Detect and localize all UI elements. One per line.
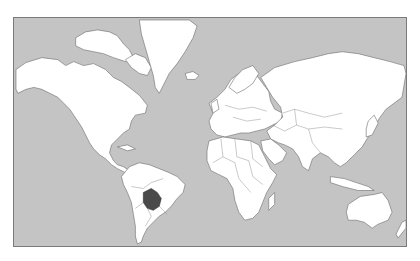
- arctic-islands: [76, 30, 134, 62]
- new-zealand: [396, 220, 406, 238]
- iceland: [185, 72, 199, 80]
- north-america: [16, 58, 147, 173]
- australia: [346, 192, 392, 228]
- world-map-canvas: [14, 18, 406, 246]
- cuba: [117, 145, 135, 151]
- madagascar: [269, 192, 275, 210]
- greenland: [139, 20, 197, 93]
- indonesia: [330, 177, 374, 191]
- world-map: [13, 17, 407, 247]
